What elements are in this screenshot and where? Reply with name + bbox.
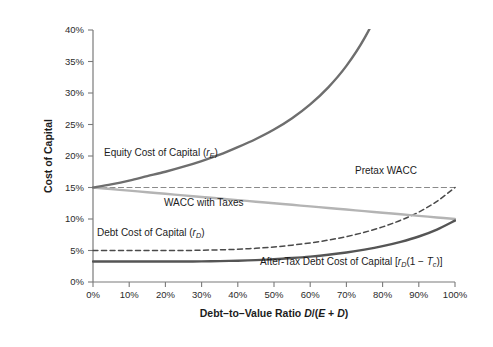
y-tick-label: 40% [65, 24, 85, 35]
y-tick-label: 30% [65, 87, 85, 98]
x-tick-label: 80% [373, 289, 393, 300]
wacc-with-taxes-label: WACC with Taxes [164, 197, 243, 208]
aftertax-label-close: )] [436, 256, 442, 267]
x-tick-label: 40% [228, 289, 248, 300]
x-tick-label: 100% [443, 289, 468, 300]
y-tick-label: 35% [65, 56, 85, 67]
y-tick-label: 20% [65, 150, 85, 161]
debt-label-close: ) [201, 227, 204, 238]
x-axis-title-plus: + [325, 307, 337, 319]
y-tick-label: 5% [70, 245, 84, 256]
y-axis-title: Cost of Capital [42, 119, 54, 193]
y-tick-label: 15% [65, 182, 85, 193]
x-tick-label: 90% [409, 289, 429, 300]
y-tick-label: 25% [65, 119, 85, 130]
x-tick-label: 30% [192, 289, 212, 300]
x-tick-label: 60% [301, 289, 321, 300]
y-tick-label: 10% [65, 213, 85, 224]
x-axis-title: Debt–to–Value Ratio D/(E + D) [200, 307, 349, 319]
chart-figure: 0%5%10%15%20%25%30%35%40% 0%10%20%30%40%… [0, 0, 493, 347]
cost-of-capital-chart: 0%5%10%15%20%25%30%35%40% 0%10%20%30%40%… [0, 0, 493, 347]
x-axis-title-close: ) [345, 307, 349, 319]
x-tick-label: 0% [86, 289, 100, 300]
debt-label-main: Debt Cost of Capital ( [97, 227, 193, 238]
x-tick-label: 20% [156, 289, 176, 300]
aftertax-label-mid: (1 − [406, 256, 426, 267]
x-tick-label: 70% [337, 289, 357, 300]
aftertax-label-main: After-Tax Debt Cost of Capital [ [260, 256, 398, 267]
equity-label-close: ) [214, 147, 217, 158]
equity-label-main: Equity Cost of Capital ( [104, 147, 207, 158]
pretax-wacc-label: Pretax WACC [355, 165, 417, 176]
x-axis-title-main: Debt–to–Value Ratio [200, 307, 304, 319]
x-tick-label: 50% [264, 289, 284, 300]
x-tick-label: 10% [120, 289, 140, 300]
y-tick-label: 0% [70, 276, 84, 287]
